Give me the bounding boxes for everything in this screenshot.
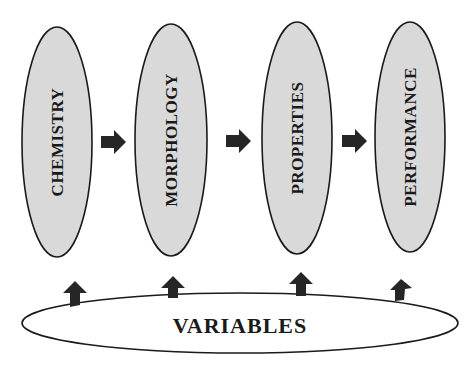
up-arrow-icon [390,279,412,301]
stage-morphology: MORPHOLOGY [135,24,207,256]
variables-base: VARIABLES [22,293,458,353]
stage-performance: PERFORMANCE [375,22,445,252]
stage-label: PERFORMANCE [401,67,420,207]
stage-label: PROPERTIES [288,81,307,194]
variables-label: VARIABLES [173,313,308,338]
right-arrow-icon [226,129,251,153]
stage-label: CHEMISTRY [48,88,67,197]
right-arrow-icon [342,129,367,153]
stage-label: MORPHOLOGY [162,73,181,206]
diagram-canvas: CHEMISTRY MORPHOLOGY PROPERTIES PERFORMA… [0,0,476,372]
stage-properties: PROPERTIES [262,22,332,254]
right-arrow-icon [101,130,126,154]
up-arrow-icon [289,272,313,296]
stage-chemistry: CHEMISTRY [22,27,92,257]
